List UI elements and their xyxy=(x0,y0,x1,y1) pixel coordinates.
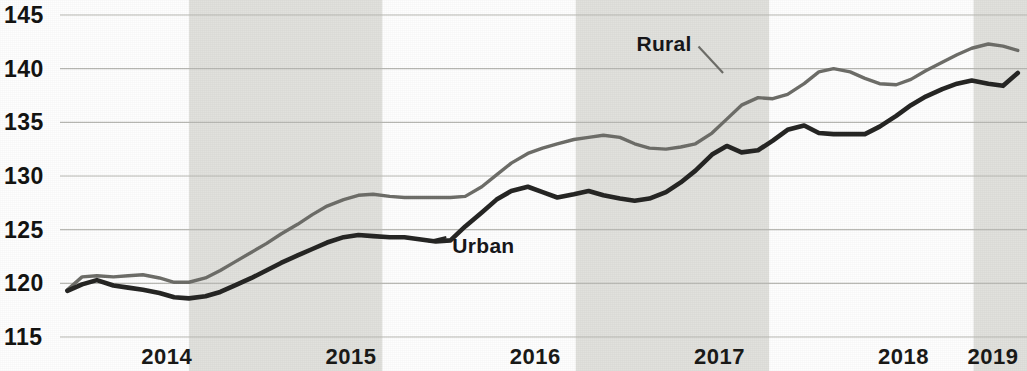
shaded-bands-group xyxy=(189,0,1027,371)
shaded-band xyxy=(189,0,382,371)
x-axis-tick-label: 2016 xyxy=(510,344,561,369)
series-label-rural: Rural xyxy=(637,32,692,55)
series-label-urban: Urban xyxy=(452,234,514,257)
x-axis-tick-label: 2014 xyxy=(141,344,192,369)
x-axis-tick-label: 2015 xyxy=(326,344,377,369)
y-axis-tick-labels: 145140135130125120115 xyxy=(4,2,44,350)
y-axis-tick-label: 135 xyxy=(4,109,44,135)
chart-canvas: 145140135130125120115 201420152016201720… xyxy=(0,0,1027,371)
y-axis-tick-label: 115 xyxy=(4,324,43,350)
y-axis-tick-label: 145 xyxy=(4,2,44,28)
y-axis-tick-label: 120 xyxy=(4,270,44,296)
shaded-band xyxy=(974,0,1027,371)
x-axis-tick-label: 2019 xyxy=(968,344,1019,369)
y-axis-tick-label: 130 xyxy=(4,163,44,189)
x-axis-tick-label: 2017 xyxy=(694,344,745,369)
y-axis-tick-label: 125 xyxy=(4,217,44,243)
line-chart: 145140135130125120115 201420152016201720… xyxy=(0,0,1027,371)
y-axis-tick-label: 140 xyxy=(4,56,44,82)
x-axis-tick-label: 2018 xyxy=(878,344,929,369)
